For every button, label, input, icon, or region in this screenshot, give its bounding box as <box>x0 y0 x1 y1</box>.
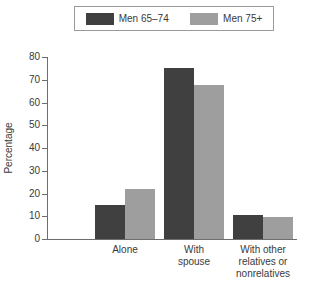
plot-area: 01020304050607080 AloneWithspouseWith ot… <box>47 57 297 239</box>
y-tick-70: 70 <box>47 80 48 81</box>
bar <box>263 217 293 239</box>
y-tick-50: 50 <box>47 125 48 126</box>
bar-group <box>164 57 224 239</box>
y-tick-mark <box>42 80 47 81</box>
x-category-label-line: nonrelatives <box>208 268 318 280</box>
y-tick-60: 60 <box>47 103 48 104</box>
y-tick-mark <box>42 239 47 240</box>
bar <box>95 205 125 239</box>
y-tick-label: 10 <box>29 211 40 221</box>
y-tick-label: 0 <box>34 234 40 244</box>
bar <box>233 215 263 239</box>
y-tick-30: 30 <box>47 171 48 172</box>
y-tick-label: 30 <box>29 166 40 176</box>
legend-entry-men-75-plus: Men 75+ <box>190 13 262 25</box>
legend-swatch-men-75-plus <box>190 13 218 25</box>
legend-swatch-men-65-74 <box>86 13 114 25</box>
y-tick-80: 80 <box>47 57 48 58</box>
y-tick-mark <box>42 125 47 126</box>
y-tick-10: 10 <box>47 216 48 217</box>
y-tick-label: 20 <box>29 189 40 199</box>
legend-label-men-65-74: Men 65–74 <box>119 14 169 24</box>
y-tick-20: 20 <box>47 194 48 195</box>
legend-entry-men-65-74: Men 65–74 <box>86 13 169 25</box>
bar <box>194 85 224 239</box>
bar-group <box>95 57 155 239</box>
bar <box>164 68 194 239</box>
y-tick-mark <box>42 216 47 217</box>
y-tick-label: 70 <box>29 75 40 85</box>
x-category-label: With otherrelatives ornonrelatives <box>208 244 318 280</box>
y-tick-0: 0 <box>47 239 48 240</box>
y-tick-40: 40 <box>47 148 48 149</box>
y-tick-label: 50 <box>29 120 40 130</box>
bar-group <box>233 57 293 239</box>
y-tick-mark <box>42 171 47 172</box>
bar-chart: Men 65–74 Men 75+ Percentage 01020304050… <box>0 0 323 293</box>
y-axis-title: Percentage <box>3 57 15 239</box>
y-tick-label: 40 <box>29 143 40 153</box>
y-tick-mark <box>42 103 47 104</box>
x-category-label-line: relatives or <box>208 256 318 268</box>
legend-label-men-75-plus: Men 75+ <box>223 14 262 24</box>
x-axis-line <box>47 239 297 240</box>
y-tick-mark <box>42 148 47 149</box>
y-tick-label: 80 <box>29 52 40 62</box>
chart-legend: Men 65–74 Men 75+ <box>74 6 274 31</box>
y-tick-label: 60 <box>29 98 40 108</box>
x-category-label-line: With other <box>208 244 318 256</box>
bar <box>125 189 155 239</box>
y-tick-mark <box>42 194 47 195</box>
y-tick-mark <box>42 57 47 58</box>
